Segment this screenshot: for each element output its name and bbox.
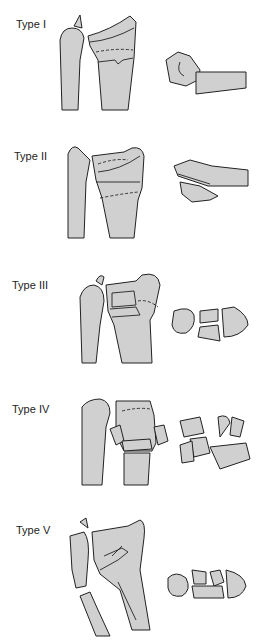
fracture-drawing-type-2 <box>0 120 263 245</box>
panel-type-1: Type I <box>0 0 263 120</box>
fracture-drawing-type-4 <box>0 365 263 490</box>
fracture-drawing-type-1 <box>0 0 263 120</box>
panel-type-3: Type III <box>0 245 263 365</box>
panel-type-2: Type II <box>0 120 263 245</box>
panel-type-4: Type IV <box>0 365 263 490</box>
fracture-drawing-type-5 <box>0 490 263 640</box>
fracture-drawing-type-3 <box>0 245 263 365</box>
panel-type-5: Type V <box>0 490 263 640</box>
